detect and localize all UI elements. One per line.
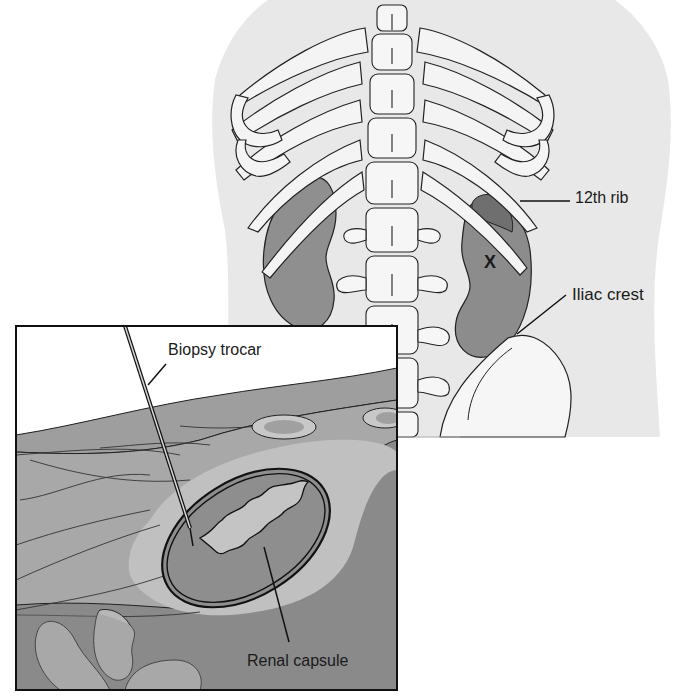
biopsy-site-marker: X — [484, 252, 496, 273]
cross-section-inset — [16, 326, 407, 690]
label-biopsy-trocar: Biopsy trocar — [168, 341, 261, 359]
label-12th-rib: 12th rib — [575, 189, 628, 207]
label-iliac-crest: Iliac crest — [572, 285, 644, 305]
label-renal-capsule: Renal capsule — [247, 652, 348, 670]
renal-biopsy-illustration — [0, 0, 676, 698]
